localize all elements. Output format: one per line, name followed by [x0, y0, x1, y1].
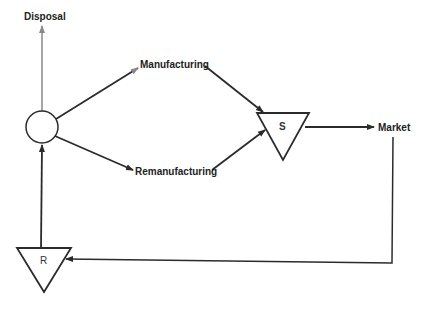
- market-label: Market: [378, 122, 411, 133]
- storage-s-label: S: [279, 121, 286, 132]
- edge-hub-to-remanufacturing: [55, 136, 133, 170]
- hub-node: [26, 111, 58, 143]
- disposal-label: Disposal: [24, 11, 66, 22]
- edge-manufacturing-to-s: [205, 66, 263, 112]
- edge-remanufacturing-to-s: [212, 130, 265, 170]
- manufacturing-label: Manufacturing: [140, 59, 209, 70]
- edge-r-to-hub: [41, 145, 42, 248]
- edge-hub-to-manufacturing: [56, 68, 138, 119]
- remanufacturing-label: Remanufacturing: [135, 166, 217, 177]
- storage-r-label: R: [40, 255, 47, 266]
- flow-diagram: Disposal Manufacturing Remanufacturing M…: [0, 0, 425, 311]
